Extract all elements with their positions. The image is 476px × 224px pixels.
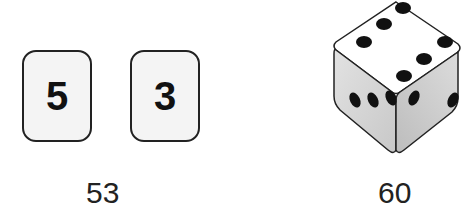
card-digit: 3: [154, 74, 176, 119]
cards-caption: 53: [86, 176, 119, 210]
dice-icon: [326, 0, 466, 158]
card-digit: 5: [46, 74, 68, 119]
dice-caption: 60: [378, 176, 411, 210]
digit-card-1: 5: [22, 50, 92, 142]
digit-card-2: 3: [130, 50, 200, 142]
